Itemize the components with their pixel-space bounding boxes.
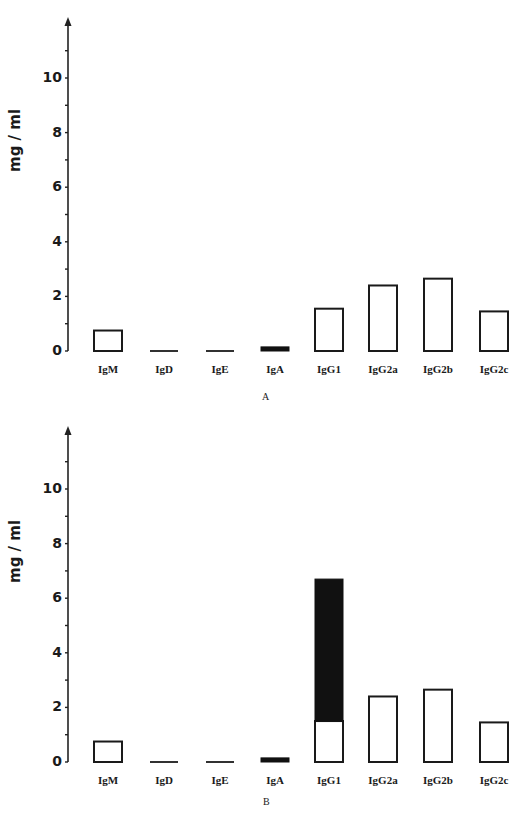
y-tick-label: 2 bbox=[32, 698, 62, 714]
x-category-label: IgM bbox=[78, 774, 138, 786]
x-category-label: IgD bbox=[134, 774, 194, 786]
bar-igm bbox=[94, 742, 122, 762]
y-tick-label: 10 bbox=[32, 480, 62, 496]
x-category-label: IgE bbox=[190, 774, 250, 786]
bar-igg1 bbox=[315, 721, 343, 762]
y-axis-label-b: mg / ml bbox=[6, 520, 24, 583]
x-category-label: IgG2c bbox=[464, 363, 524, 375]
x-category-label: IgG1 bbox=[299, 363, 359, 375]
x-category-label: IgE bbox=[190, 363, 250, 375]
x-category-label: IgA bbox=[245, 774, 305, 786]
bar-igg2a bbox=[369, 696, 397, 762]
panel-caption-a: A bbox=[262, 391, 269, 402]
chart-panel-b: mg / ml B 0246810IgMIgDIgEIgAIgG1IgG2aIg… bbox=[0, 410, 528, 820]
y-axis-label-a: mg / ml bbox=[6, 109, 24, 172]
bar-igg1 bbox=[315, 309, 343, 351]
y-tick-label: 6 bbox=[32, 178, 62, 194]
y-tick-label: 0 bbox=[32, 342, 62, 358]
chart-panel-a: mg / ml A 0246810IgMIgDIgEIgAIgG1IgG2aIg… bbox=[0, 0, 528, 410]
bar-igg2c bbox=[480, 311, 508, 351]
chart-a-plot bbox=[0, 0, 528, 410]
y-tick-label: 4 bbox=[32, 233, 62, 249]
x-category-label: IgG2b bbox=[408, 774, 468, 786]
x-category-label: IgG2b bbox=[408, 363, 468, 375]
y-tick-label: 10 bbox=[32, 69, 62, 85]
x-category-label: IgG1 bbox=[299, 774, 359, 786]
bar-igg2c bbox=[480, 722, 508, 762]
y-axis-arrow-icon bbox=[65, 17, 72, 26]
y-tick-label: 8 bbox=[32, 124, 62, 140]
bar-filled-iga bbox=[261, 347, 289, 351]
bar-igg2b bbox=[424, 279, 452, 351]
x-category-label: IgM bbox=[78, 363, 138, 375]
bar-igg2b bbox=[424, 690, 452, 762]
chart-b-plot bbox=[0, 410, 528, 820]
y-tick-label: 8 bbox=[32, 535, 62, 551]
x-category-label: IgG2a bbox=[353, 363, 413, 375]
panel-caption-b: B bbox=[263, 796, 270, 807]
x-category-label: IgA bbox=[245, 363, 305, 375]
bar-filled-igg1 bbox=[315, 579, 343, 721]
y-tick-label: 4 bbox=[32, 644, 62, 660]
x-category-label: IgD bbox=[134, 363, 194, 375]
bar-igg2a bbox=[369, 285, 397, 351]
bar-igm bbox=[94, 331, 122, 351]
x-category-label: IgG2a bbox=[353, 774, 413, 786]
bar-filled-iga bbox=[261, 758, 289, 762]
y-tick-label: 2 bbox=[32, 287, 62, 303]
x-category-label: IgG2c bbox=[464, 774, 524, 786]
y-axis-arrow-icon bbox=[65, 426, 72, 435]
y-tick-label: 0 bbox=[32, 753, 62, 769]
y-tick-label: 6 bbox=[32, 589, 62, 605]
